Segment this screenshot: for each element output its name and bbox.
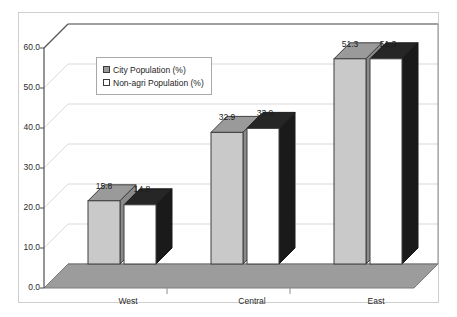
legend-item-city-population[interactable]: City Population (%) [103, 63, 204, 76]
data-label-east-city: 51.3 [332, 39, 368, 49]
bar-face [211, 132, 243, 264]
y-tick-label: 40.0 [2, 123, 40, 132]
bar-face [88, 201, 120, 264]
side-wall-gridlines [44, 24, 68, 248]
data-label-west-city: 15.8 [86, 181, 122, 191]
bar-side [402, 43, 418, 264]
chart-legend[interactable]: City Population (%) Non-agri Population … [96, 57, 212, 95]
data-label-central-city: 32.9 [209, 112, 245, 122]
chart-3d-column: 60.0 50.0 40.0 30.0 20.0 10.0 0.0 West C… [0, 0, 457, 317]
x-tick-label-east: East [338, 296, 414, 306]
y-tick-label: 10.0 [2, 243, 40, 252]
y-tick-label: 50.0 [2, 83, 40, 92]
data-label-central-nonagri: 33.9 [247, 108, 283, 118]
x-tick-label-central: Central [214, 296, 290, 306]
legend-item-nonagri-population[interactable]: Non-agri Population (%) [103, 76, 204, 89]
y-tick-label: 0.0 [2, 283, 40, 292]
data-label-west-nonagri: 14.8 [124, 184, 160, 194]
wall-top-depth-edge [44, 24, 68, 48]
bar-face [334, 59, 366, 264]
chart-floor [44, 264, 438, 288]
empty-white-swatch [103, 79, 110, 86]
y-tick-label: 60.0 [2, 43, 40, 52]
bar-face [247, 128, 279, 264]
legend-label: City Population (%) [113, 65, 186, 75]
y-axis-labels: 60.0 50.0 40.0 30.0 20.0 10.0 0.0 [0, 0, 40, 317]
bar-east-nonagri [370, 43, 418, 264]
filled-gray-swatch [103, 66, 110, 73]
bar-central-nonagri [247, 112, 295, 264]
x-tick-label-west: West [90, 296, 166, 306]
x-axis-ticks [167, 288, 290, 294]
data-label-east-nonagri: 51.3 [370, 39, 406, 49]
y-tick-label: 20.0 [2, 203, 40, 212]
bar-face [370, 59, 402, 264]
y-tick-label: 30.0 [2, 163, 40, 172]
legend-label: Non-agri Population (%) [113, 78, 204, 88]
bar-face [124, 205, 156, 264]
bar-west-nonagri [124, 189, 172, 264]
bar-side [279, 112, 295, 264]
